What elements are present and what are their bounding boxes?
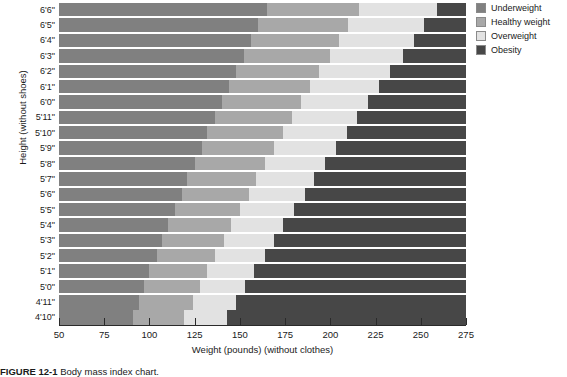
gridline (59, 109, 466, 111)
y-axis-tick-labels: 6'6"6'5"6'4"6'3"6'2"6'1"6'0"5'11"5'10"5'… (18, 2, 55, 325)
gridline (59, 2, 466, 3)
x-tick-mark (59, 318, 60, 325)
gridline (59, 232, 466, 234)
y-tick-label: 6'3" (40, 51, 55, 61)
x-tick-mark (240, 318, 241, 325)
legend-item: Healthy weight (476, 15, 567, 28)
y-tick-label: 5'2" (40, 251, 55, 261)
legend-label: Obesity (491, 45, 522, 55)
x-tick-label: 75 (84, 329, 124, 340)
x-tick-label: 100 (129, 329, 169, 340)
figure-number: FIGURE 12-1 (0, 366, 58, 377)
legend-item: Overweight (476, 29, 567, 42)
x-tick-mark (149, 318, 150, 325)
gridline (59, 16, 466, 18)
gridline (59, 216, 466, 218)
x-tick-label: 50 (39, 329, 79, 340)
legend-swatch-icon (476, 17, 486, 27)
legend-swatch-icon (476, 45, 486, 55)
y-tick-label: 4'10" (35, 312, 55, 322)
x-axis-title: Weight (pounds) (without clothes) (59, 344, 466, 355)
gridline (59, 124, 466, 126)
gridline (59, 247, 466, 249)
gridline (59, 262, 466, 264)
y-tick-label: 4'11" (36, 297, 55, 307)
gridline (59, 93, 466, 95)
legend-label: Healthy weight (491, 17, 550, 27)
gridline (59, 155, 466, 157)
gridline (59, 63, 466, 65)
y-tick-label: 5'3" (40, 235, 55, 245)
gridline (59, 78, 466, 80)
y-tick-label: 5'8" (40, 159, 55, 169)
legend-label: Overweight (491, 31, 537, 41)
legend-item: Underweight (476, 1, 567, 14)
x-tick-mark (466, 318, 467, 325)
chart-legend: UnderweightHealthy weightOverweightObesi… (476, 1, 567, 57)
y-tick-label: 6'5" (40, 20, 55, 30)
x-tick-label: 250 (401, 329, 441, 340)
y-tick-label: 5'0" (40, 282, 55, 292)
y-tick-label: 5'4" (40, 220, 55, 230)
legend-swatch-icon (476, 31, 486, 41)
gridline (59, 32, 466, 34)
x-tick-label: 150 (220, 329, 260, 340)
bmi-chart-figure: Height (without shoes) 6'6"6'5"6'4"6'3"6… (0, 0, 567, 377)
gridline (59, 139, 466, 141)
x-tick-label: 175 (265, 329, 305, 340)
x-tick-label: 275 (446, 329, 486, 340)
legend-swatch-icon (476, 3, 486, 13)
x-tick-mark (421, 318, 422, 325)
legend-item: Obesity (476, 43, 567, 56)
x-axis-line (59, 325, 466, 326)
legend-label: Underweight (491, 3, 542, 13)
y-tick-label: 5'5" (40, 205, 55, 215)
figure-caption: FIGURE 12-1 Body mass index chart. (0, 366, 567, 377)
y-tick-label: 6'1" (40, 82, 55, 92)
x-tick-mark (376, 318, 377, 325)
y-tick-label: 5'10" (35, 128, 55, 138)
plot-area (59, 2, 466, 325)
x-tick-label: 200 (310, 329, 350, 340)
y-tick-label: 6'2" (40, 66, 55, 76)
y-tick-label: 6'6" (40, 5, 55, 15)
gridline (59, 186, 466, 188)
y-tick-label: 5'7" (40, 174, 55, 184)
x-tick-mark (330, 318, 331, 325)
y-tick-label: 5'11" (36, 112, 55, 122)
x-tick-label: 225 (356, 329, 396, 340)
gridline (59, 201, 466, 203)
y-tick-label: 5'9" (40, 143, 55, 153)
y-tick-label: 5'6" (40, 189, 55, 199)
gridline (59, 278, 466, 280)
gridline (59, 47, 466, 49)
y-tick-label: 6'0" (40, 97, 55, 107)
x-tick-mark (104, 318, 105, 325)
gridline (59, 170, 466, 172)
y-tick-label: 5'1" (40, 266, 55, 276)
caption-text: Body mass index chart. (60, 366, 159, 377)
gridline (59, 293, 466, 295)
x-tick-mark (195, 318, 196, 325)
x-tick-mark (285, 318, 286, 325)
bmi-band-regions (59, 2, 466, 325)
y-tick-label: 6'4" (40, 35, 55, 45)
x-tick-label: 125 (175, 329, 215, 340)
